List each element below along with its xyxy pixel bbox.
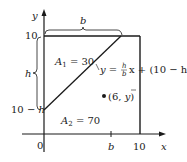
x-tick-label-10: 10 (133, 141, 146, 152)
y-tick-10-minus: 10 − (11, 104, 38, 115)
left-brace (33, 37, 41, 110)
svg-text:h: h (122, 62, 127, 70)
svg-text:b: b (122, 70, 127, 78)
area-diagram: y x 0 b 10 10 10 − h b h A1 = 30 A2 = 70… (0, 0, 187, 162)
equation-leader (96, 64, 99, 70)
line-equation: y = h b x + (10 − h) (99, 62, 187, 78)
y-axis-label: y (31, 10, 38, 21)
region-a2-label: A2 = 70 (60, 115, 100, 128)
svg-text:y =: y = (99, 64, 117, 75)
point-label: (6, y) (108, 91, 134, 102)
top-brace-label: b (80, 15, 86, 26)
centroid-point (102, 94, 106, 98)
y-tick-h: h (38, 104, 44, 115)
y-tick-label-10: 10 (25, 30, 38, 41)
x-tick-label-b: b (108, 141, 114, 152)
y-axis (42, 9, 47, 152)
x-axis-label: x (161, 141, 167, 152)
y-tick-label-10-minus-h: 10 − h (11, 104, 45, 115)
top-brace (45, 27, 122, 35)
origin-label: 0 (37, 140, 43, 151)
svg-text:x + (10 − h): x + (10 − h) (129, 64, 187, 75)
left-brace-label: h (25, 68, 31, 79)
